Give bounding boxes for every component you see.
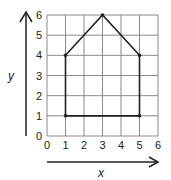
y-tick-label: 0 xyxy=(36,130,42,142)
chart-canvas: 01234560123456 y x xyxy=(0,0,171,180)
vertex-point xyxy=(64,54,68,58)
x-tick-label: 3 xyxy=(100,139,106,151)
x-tick-label: 6 xyxy=(155,139,161,151)
y-tick-label: 4 xyxy=(36,49,42,61)
x-tick-label: 1 xyxy=(63,139,69,151)
y-tick-label: 1 xyxy=(36,110,42,122)
vertex-point xyxy=(101,13,105,17)
y-axis-label: y xyxy=(7,69,15,83)
vertex-point xyxy=(64,114,68,118)
x-tick-label: 2 xyxy=(81,139,87,151)
x-tick-label: 4 xyxy=(118,139,124,151)
x-tick-label: 0 xyxy=(44,139,50,151)
tick-labels: 01234560123456 xyxy=(36,9,161,151)
y-tick-label: 6 xyxy=(36,9,42,21)
y-tick-label: 3 xyxy=(36,70,42,82)
y-tick-label: 5 xyxy=(36,29,42,41)
vertex-point xyxy=(138,54,142,58)
grid xyxy=(47,15,158,136)
y-tick-label: 2 xyxy=(36,90,42,102)
y-axis-arrow xyxy=(20,12,32,136)
x-axis-label: x xyxy=(97,166,105,180)
vertex-point xyxy=(138,114,142,118)
x-tick-label: 5 xyxy=(137,139,143,151)
